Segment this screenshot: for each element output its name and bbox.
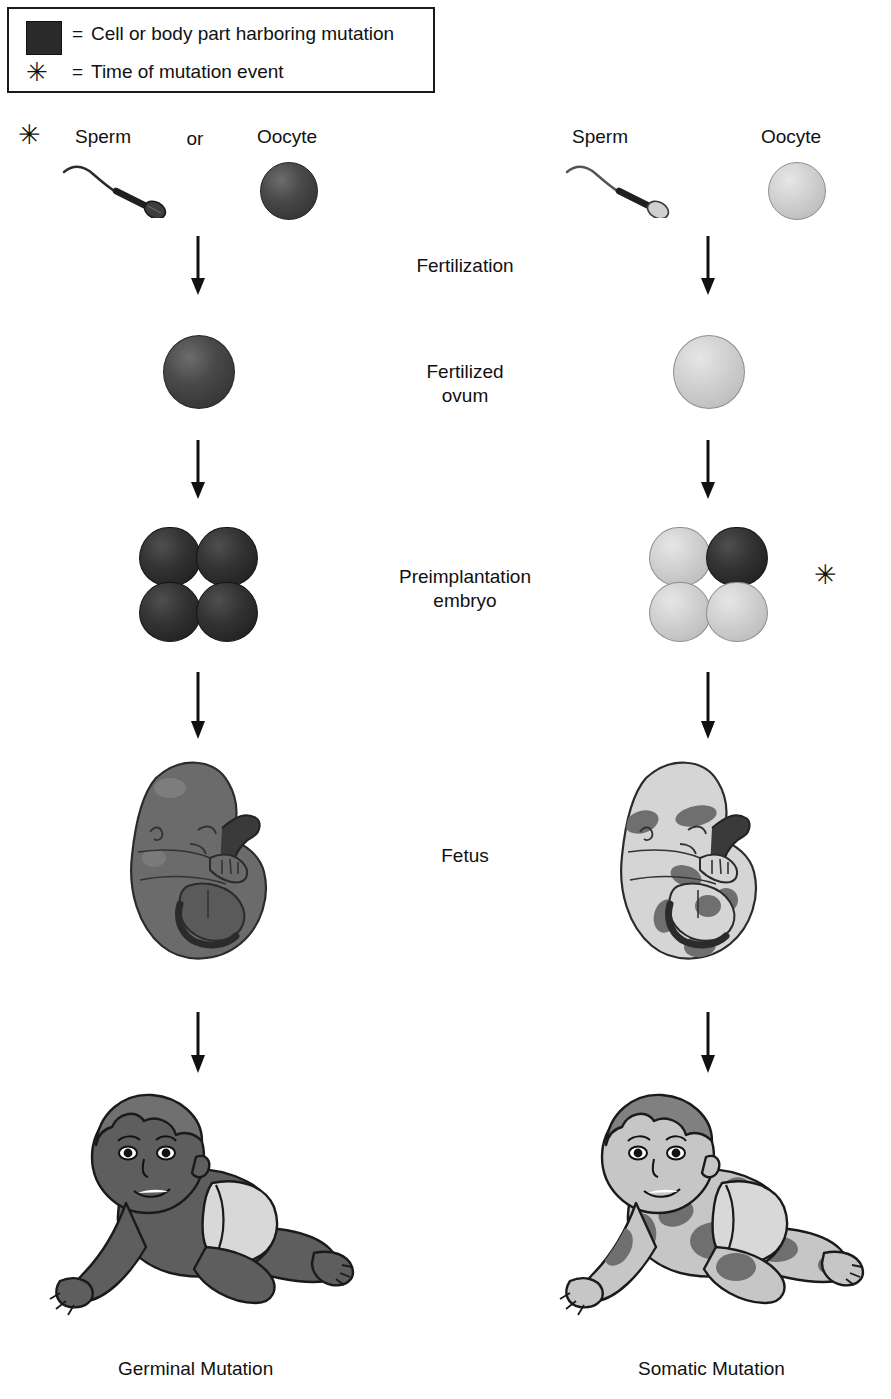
- diagram-canvas: = Cell or body part harboring mutation ✳…: [0, 0, 891, 1399]
- sperm-illustration-somatic: [563, 160, 681, 218]
- gamete-connector-or: or: [160, 128, 230, 150]
- stage-label-fertilized-ovum-line1: Fertilized: [385, 360, 545, 384]
- arrow-cleavage-somatic: [696, 440, 720, 500]
- column-caption-somatic: Somatic Mutation: [638, 1358, 785, 1380]
- gamete-label-sperm-somatic: Sperm: [545, 126, 655, 148]
- blastomere-2-mutant: [706, 527, 768, 587]
- stage-label-fertilized-ovum-line2: ovum: [385, 384, 545, 408]
- fetus-somatic: [600, 740, 830, 970]
- oocyte-germinal: [260, 162, 318, 220]
- arrow-development-somatic: [696, 672, 720, 740]
- legend-mutation-swatch: [26, 21, 62, 55]
- legend-asterisk-icon: ✳: [26, 59, 48, 85]
- preimplantation-embryo-somatic: [649, 527, 767, 639]
- baby-somatic: [540, 1035, 890, 1335]
- stage-label-preimplantation-embryo: Preimplantation embryo: [355, 565, 575, 613]
- legend-equals-2: =: [72, 61, 83, 83]
- oocyte-somatic: [768, 162, 826, 220]
- fetus-germinal: [110, 740, 330, 970]
- fertilized-ovum-germinal: [163, 335, 235, 409]
- legend-equals-1: =: [72, 23, 83, 45]
- blastomere-3: [649, 582, 711, 642]
- legend-asterisk-label: Time of mutation event: [91, 61, 284, 83]
- stage-label-fertilized-ovum: Fertilized ovum: [385, 360, 545, 408]
- stage-label-preimplantation-line1: Preimplantation: [355, 565, 575, 589]
- blastomere-4: [706, 582, 768, 642]
- gamete-label-sperm-germinal: Sperm: [48, 126, 158, 148]
- column-caption-germinal: Germinal Mutation: [118, 1358, 273, 1380]
- sperm-illustration-germinal: [60, 160, 178, 218]
- blastomere-1: [139, 527, 201, 587]
- stage-label-preimplantation-line2: embryo: [355, 589, 575, 613]
- blastomere-2: [196, 527, 258, 587]
- arrow-fertilization-somatic: [696, 236, 720, 296]
- arrow-cleavage-germinal: [186, 440, 210, 500]
- gamete-label-oocyte-somatic: Oocyte: [736, 126, 846, 148]
- preimplantation-embryo-germinal: [139, 527, 257, 639]
- gamete-label-oocyte-germinal: Oocyte: [232, 126, 342, 148]
- stage-label-fertilization: Fertilization: [385, 255, 545, 277]
- arrow-fertilization-germinal: [186, 236, 210, 296]
- blastomere-3: [139, 582, 201, 642]
- legend-box: = Cell or body part harboring mutation ✳…: [7, 7, 435, 93]
- baby-germinal: [30, 1035, 380, 1335]
- blastomere-1: [649, 527, 711, 587]
- legend-mutation-swatch-label: Cell or body part harboring mutation: [91, 23, 394, 45]
- mutation-marker-somatic: ✳: [814, 562, 837, 589]
- fertilized-ovum-somatic: [673, 335, 745, 409]
- mutation-marker-germinal: ✳: [18, 122, 41, 149]
- stage-label-fetus: Fetus: [385, 845, 545, 867]
- arrow-development-germinal: [186, 672, 210, 740]
- blastomere-4: [196, 582, 258, 642]
